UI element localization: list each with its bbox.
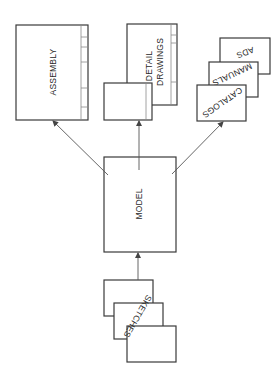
model-label: MODEL xyxy=(134,188,144,219)
catalogs-card: CATALOGS xyxy=(197,85,246,121)
detail-drawings-label-line2: DRAWINGS xyxy=(155,38,165,86)
assembly-label: ASSEMBLY xyxy=(48,48,58,95)
diagram-canvas: ASSEMBLY DETAIL DRAWINGS ADS MANUALS CAT… xyxy=(0,0,272,380)
detail-drawing-sheet xyxy=(104,83,152,120)
assembly-node: ASSEMBLY xyxy=(16,25,88,120)
model-node: MODEL xyxy=(104,157,176,252)
publications-stack: ADS MANUALS CATALOGS xyxy=(197,38,270,121)
arrow-model-to-publications xyxy=(172,122,223,174)
detail-drawings-label-line1: DETAIL xyxy=(144,51,154,81)
sketches-stack: SKETCHES xyxy=(104,280,176,362)
detail-drawings-node: DETAIL DRAWINGS xyxy=(104,24,177,120)
arrow-model-to-assembly xyxy=(53,121,108,175)
